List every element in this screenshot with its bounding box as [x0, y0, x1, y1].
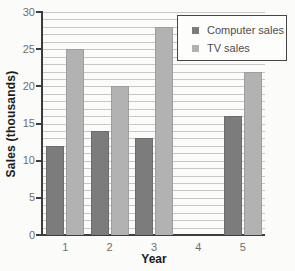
- x-axis-tick-label: 1: [53, 241, 77, 253]
- x-axis-tick-label: 2: [98, 241, 122, 253]
- x-axis-tick-label: 4: [186, 241, 210, 253]
- legend: Computer sales TV sales: [177, 15, 287, 61]
- computer-sales-swatch: [192, 27, 199, 34]
- tv-sales-swatch: [192, 45, 199, 52]
- legend-label-computer-sales: Computer sales: [207, 24, 284, 36]
- gridline: [43, 12, 265, 13]
- bar-tv-sales-year-3: [155, 27, 173, 235]
- bar-tv-sales-year-2: [111, 86, 129, 235]
- bar-computer-sales-year-1: [46, 146, 64, 235]
- legend-item-tv-sales: TV sales: [192, 39, 286, 57]
- bar-computer-sales-year-5: [224, 116, 242, 235]
- x-axis-tick-label: 5: [231, 241, 255, 253]
- y-axis-tick-label: 0: [8, 229, 35, 242]
- bar-computer-sales-year-3: [135, 138, 153, 235]
- bar-chart: Sales (thousands) 05101520253012345 Year…: [0, 0, 295, 271]
- y-axis-tick-label: 25: [8, 43, 35, 56]
- x-axis-title: Year: [141, 252, 166, 266]
- y-axis-tick-label: 30: [8, 6, 35, 19]
- bar-tv-sales-year-5: [244, 72, 262, 236]
- legend-item-computer-sales: Computer sales: [192, 21, 286, 39]
- legend-label-tv-sales: TV sales: [207, 42, 250, 54]
- y-axis-title: Sales (thousands): [4, 71, 18, 178]
- bar-tv-sales-year-1: [66, 49, 84, 235]
- bar-computer-sales-year-2: [91, 131, 109, 235]
- y-axis-tick-label: 5: [8, 191, 35, 204]
